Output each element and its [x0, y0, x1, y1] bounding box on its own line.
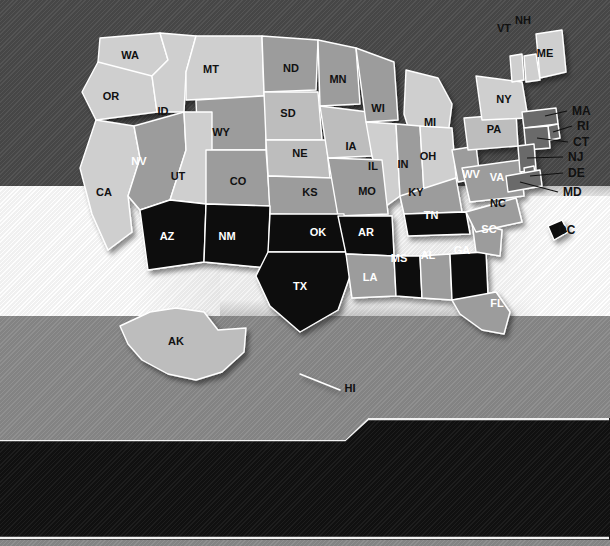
state-label-az: AZ [160, 230, 175, 242]
state-label-ga: GA [454, 244, 471, 256]
state-label-nc: NC [490, 197, 506, 209]
state-label-nd: ND [283, 62, 299, 74]
callout-label-md: MD [563, 185, 582, 199]
state-label-mi: MI [424, 116, 436, 128]
state-mt[interactable] [186, 36, 264, 100]
state-label-hi: HI [345, 382, 356, 394]
callout-label-ri: RI [577, 119, 589, 133]
callout-label-de: DE [568, 166, 585, 180]
state-label-ar: AR [358, 226, 374, 238]
state-label-mt: MT [203, 63, 219, 75]
state-label-mo: MO [358, 185, 376, 197]
state-ne[interactable] [266, 140, 330, 178]
states-layer [80, 30, 568, 390]
state-label-nv: NV [131, 155, 147, 167]
legend-border [0, 418, 610, 540]
state-ga[interactable] [450, 252, 488, 300]
state-label-fl: FL [490, 297, 504, 309]
state-label-oh: OH [420, 150, 437, 162]
us-map: WAORIDMTWYNDSDNEMNIAWIMIILINOHCANVUTCOKS… [0, 0, 610, 420]
state-label-in: IN [398, 158, 409, 170]
infographic-map: WAORIDMTWYNDSDNEMNIAWIMIILINOHCANVUTCOKS… [0, 0, 610, 546]
state-label-nh: NH [515, 14, 531, 26]
state-label-vt: VT [497, 22, 511, 34]
state-label-wa: WA [121, 49, 139, 61]
state-label-ne: NE [292, 147, 307, 159]
state-label-wv: WV [462, 168, 480, 180]
state-label-wy: WY [212, 126, 230, 138]
state-label-ia: IA [346, 140, 357, 152]
state-label-al: AL [421, 249, 436, 261]
state-nm[interactable] [204, 204, 270, 268]
state-label-tx: TX [293, 280, 308, 292]
state-label-or: OR [103, 90, 120, 102]
callout-label-nj: NJ [568, 150, 583, 164]
callout-label-dc: DC [558, 223, 576, 237]
callout-label-ma: MA [572, 104, 591, 118]
state-label-ks: KS [302, 186, 317, 198]
state-label-ut: UT [171, 170, 186, 182]
state-label-wi: WI [371, 102, 384, 114]
state-label-sd: SD [280, 107, 295, 119]
state-tx[interactable] [256, 252, 350, 332]
state-label-il: IL [368, 160, 378, 172]
state-label-ak: AK [168, 335, 184, 347]
legend: 10 highest ratesRates significantly high… [0, 418, 610, 540]
state-label-ms: MS [391, 252, 408, 264]
us-map-svg: WAORIDMTWYNDSDNEMNIAWIMIILINOHCANVUTCOKS… [0, 0, 610, 420]
state-vt[interactable] [510, 54, 524, 82]
state-label-nm: NM [218, 230, 235, 242]
state-label-ok: OK [310, 226, 327, 238]
state-label-sc: SC [481, 223, 496, 235]
callout-label-ct: CT [573, 135, 590, 149]
state-label-tn: TN [424, 209, 439, 221]
state-label-mn: MN [329, 73, 346, 85]
state-label-ky: KY [408, 186, 424, 198]
state-label-va: VA [490, 171, 505, 183]
state-label-ny: NY [496, 93, 512, 105]
state-ok[interactable] [268, 214, 346, 252]
state-label-pa: PA [487, 123, 502, 135]
state-hi[interactable] [300, 374, 340, 390]
state-label-me: ME [537, 47, 554, 59]
state-label-la: LA [363, 271, 378, 283]
state-label-ca: CA [96, 186, 112, 198]
state-label-co: CO [230, 175, 247, 187]
state-label-id: ID [158, 105, 169, 117]
